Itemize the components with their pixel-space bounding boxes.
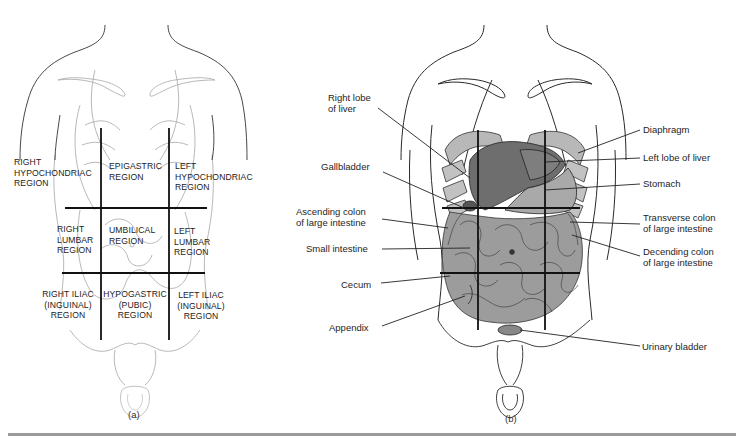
torso-outline-a <box>20 25 247 418</box>
leader-urinary-bladder <box>520 330 640 346</box>
abdominal-regions-artwork <box>0 0 736 445</box>
leader-appendix <box>382 296 465 326</box>
label-cecum: Cecum <box>341 279 371 290</box>
label-appendix: Appendix <box>329 322 369 333</box>
label-small-intestine: Small intestine <box>306 243 368 254</box>
urinary-bladder-b <box>498 325 522 335</box>
label-right-lumbar: RIGHT LUMBAR REGION <box>57 224 93 256</box>
label-urinary-bladder: Urinary bladder <box>642 341 707 352</box>
leader-diaphragm <box>578 130 640 153</box>
label-right-iliac: RIGHT ILIAC (INGUINAL) REGION <box>38 289 98 321</box>
label-left-hypochondriac: LEFT HYPOCHONDRIAC REGION <box>175 161 253 193</box>
label-left-lobe-liver: Left lobe of liver <box>643 152 710 163</box>
bottom-divider <box>8 433 736 436</box>
label-hypogastric: HYPOGASTRIC (PUBIC) REGION <box>100 289 170 321</box>
label-diaphragm: Diaphragm <box>643 124 689 135</box>
label-right-hypochondriac: RIGHT HYPOCHONDRIAC REGION <box>14 157 92 189</box>
leader-cecum <box>381 276 450 283</box>
label-gallbladder: Gallbladder <box>321 161 370 172</box>
caption-b: (b) <box>505 413 517 424</box>
label-transverse-colon: Transverse colon of large intestine <box>643 212 716 234</box>
leader-ascending-colon <box>382 219 448 228</box>
label-ascending-colon: Ascending colon of large intestine <box>296 206 366 228</box>
label-left-lumbar: LEFT LUMBAR REGION <box>174 226 210 258</box>
label-descending-colon: Decending colon of large intestine <box>643 246 714 268</box>
intestines-b <box>442 212 582 323</box>
leader-transverse-colon <box>570 222 640 224</box>
label-stomach: Stomach <box>643 178 681 189</box>
label-epigastric: EPIGASTRIC REGION <box>109 161 162 182</box>
label-left-iliac: LEFT ILIAC (INGUINAL) REGION <box>170 290 232 322</box>
label-right-lobe-liver: Right lobe of liver <box>328 92 371 114</box>
gallbladder-b <box>463 201 477 211</box>
caption-a: (a) <box>128 409 140 420</box>
label-umbilical: UMBILICAL REGION <box>109 225 155 246</box>
